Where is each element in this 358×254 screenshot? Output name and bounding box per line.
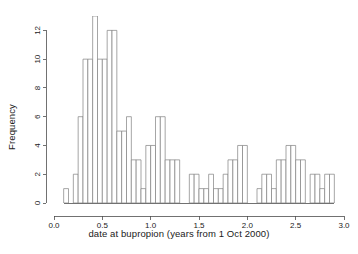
histogram-bar <box>223 174 228 203</box>
histogram-bar <box>98 59 103 203</box>
histogram-bar <box>122 131 127 203</box>
histogram-bar <box>320 189 325 203</box>
histogram-bar <box>214 189 219 203</box>
histogram-bar <box>88 59 93 203</box>
histogram-bar <box>233 160 238 203</box>
histogram-bar <box>102 59 107 203</box>
y-tick-label: 10 <box>33 54 42 63</box>
histogram-bar <box>170 160 175 203</box>
histogram-bar <box>194 174 199 203</box>
histogram-bar <box>276 160 281 203</box>
histogram-bar <box>228 160 233 203</box>
histogram-bar <box>325 174 330 203</box>
y-tick-label: 4 <box>33 143 42 148</box>
histogram-bar <box>281 160 286 203</box>
histogram-bar <box>238 145 243 203</box>
histogram-bar <box>141 189 146 203</box>
histogram-bar <box>286 145 291 203</box>
y-tick-label: 8 <box>33 85 42 90</box>
histogram-bar <box>156 117 161 203</box>
histogram-bar <box>330 174 335 203</box>
plot-area <box>54 16 344 203</box>
histogram-bar <box>146 145 151 203</box>
histogram-bar <box>209 174 214 203</box>
y-axis-title: Frequency <box>0 0 22 254</box>
histogram-bar <box>73 174 78 203</box>
histogram-bar <box>175 160 180 203</box>
x-axis-title: date at bupropion (years from 1 Oct 2000… <box>0 228 358 239</box>
histogram-bar <box>131 160 136 203</box>
histogram-bar <box>189 174 194 203</box>
histogram-bar <box>199 189 204 203</box>
histogram-bar <box>117 131 122 203</box>
histogram-bar <box>267 174 272 203</box>
histogram-bar <box>310 174 315 203</box>
y-tick-label: 2 <box>33 171 42 176</box>
y-tick-label: 6 <box>33 114 42 119</box>
histogram-bar <box>272 189 277 203</box>
histogram-bar <box>64 189 69 203</box>
histogram-bar <box>127 117 132 203</box>
y-tick-label: 0 <box>33 200 42 205</box>
histogram-bars <box>54 16 344 203</box>
histogram-bar <box>243 145 248 203</box>
histogram-bar <box>107 30 112 203</box>
histogram-bar <box>218 189 223 203</box>
histogram-bar <box>93 16 98 203</box>
histogram-bar <box>257 189 262 203</box>
histogram-bar <box>262 174 267 203</box>
y-tick-label: 12 <box>33 25 42 34</box>
histogram-bar <box>136 160 141 203</box>
histogram-bar <box>83 59 88 203</box>
histogram-figure: Frequency 0246810120.00.51.01.52.02.53.0… <box>0 0 358 254</box>
histogram-bar <box>151 145 156 203</box>
histogram-bar <box>296 160 301 203</box>
histogram-bar <box>301 160 306 203</box>
histogram-bar <box>204 189 209 203</box>
histogram-bar <box>291 145 296 203</box>
histogram-bar <box>160 117 165 203</box>
histogram-bar <box>112 30 117 203</box>
histogram-bar <box>78 117 83 203</box>
histogram-bar <box>315 174 320 203</box>
histogram-bar <box>165 160 170 203</box>
